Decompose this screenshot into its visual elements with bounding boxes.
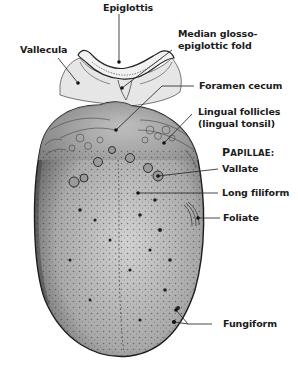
median-fold-label-line1: Median glosso- — [178, 28, 257, 39]
long-filiform-label: Long filiform — [222, 187, 289, 198]
lingual-follicles-label-line2: (lingual tonsil) — [198, 118, 275, 129]
fungiform-label: Fungiform — [223, 318, 277, 329]
foramen-cecum-label: Foramen cecum — [199, 80, 282, 91]
papillae-heading: PAPILLAE: — [222, 147, 274, 159]
vallecula-label: Vallecula — [20, 44, 67, 55]
vallate-label: Vallate — [222, 163, 258, 174]
median-fold-label-line2: epiglottic fold — [178, 40, 252, 51]
lingual-follicles-label-line1: Lingual follicles — [198, 106, 280, 117]
foliate-label: Foliate — [223, 212, 259, 223]
papillae-heading-rest: APILLAE: — [230, 148, 274, 158]
tongue-body — [30, 100, 210, 360]
tongue-diagram: Epiglottis Vallecula Median glosso- epig… — [0, 0, 298, 376]
epiglottis-label: Epiglottis — [103, 2, 153, 13]
